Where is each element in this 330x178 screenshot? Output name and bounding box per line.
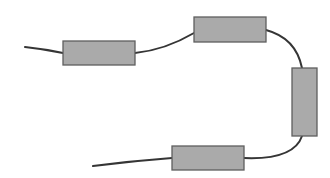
chain-diagram	[0, 0, 330, 178]
wire-2-3	[266, 30, 302, 68]
wire-3-4	[244, 136, 302, 158]
wire-1-2	[135, 33, 194, 53]
segments-layer	[63, 17, 317, 170]
wire-lead-out	[93, 158, 172, 166]
segment-2	[194, 17, 266, 42]
segment-3	[292, 68, 317, 136]
segment-4	[172, 146, 244, 170]
wire-lead-in	[25, 47, 63, 53]
diagram-canvas	[0, 0, 330, 178]
segment-1	[63, 41, 135, 65]
